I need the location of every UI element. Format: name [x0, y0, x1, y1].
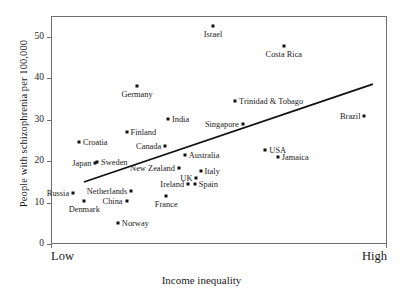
- data-point-label: Singapore: [205, 120, 239, 129]
- data-point[interactable]: [234, 99, 237, 102]
- data-point[interactable]: [241, 123, 244, 126]
- chart-page: People with schizophrenia per 100,000 01…: [0, 0, 403, 304]
- data-point[interactable]: [199, 170, 202, 173]
- data-point-label: Netherlands: [87, 186, 127, 195]
- y-axis-tick: 20: [0, 161, 51, 162]
- data-point[interactable]: [136, 84, 139, 87]
- x-axis-low-label: Low: [51, 249, 74, 264]
- data-point[interactable]: [183, 154, 186, 157]
- y-axis-tick-label: 20: [35, 154, 45, 167]
- data-point-label: Italy: [205, 167, 220, 176]
- data-point[interactable]: [116, 222, 119, 225]
- data-point[interactable]: [125, 130, 128, 133]
- y-axis-title: People with schizophrenia per 100,000: [18, 19, 29, 229]
- y-axis-tick: 30: [0, 120, 51, 121]
- data-point-label: France: [155, 200, 178, 209]
- trend-line: [52, 17, 388, 245]
- data-point-label: New Zealand: [130, 163, 175, 172]
- plot-area: IsraelCosta RicaGermanyTrinidad & Tobago…: [51, 16, 387, 244]
- data-point-label: Jamaica: [282, 153, 309, 162]
- data-point-label: Ireland: [160, 179, 184, 188]
- y-axis-tick-label: 50: [35, 30, 45, 43]
- data-point-label: Costa Rica: [266, 50, 303, 59]
- data-point[interactable]: [125, 200, 128, 203]
- data-point-label: Germany: [121, 90, 152, 99]
- data-point-label: Norway: [122, 219, 149, 228]
- data-point[interactable]: [166, 117, 169, 120]
- data-point-label: Finland: [131, 127, 157, 136]
- data-point[interactable]: [164, 145, 167, 148]
- data-point[interactable]: [72, 191, 75, 194]
- data-point-label: Trinidad & Tobago: [239, 96, 303, 105]
- y-axis-tick-label: 0: [39, 237, 44, 250]
- data-point[interactable]: [193, 183, 196, 186]
- data-point-label: Sweden: [101, 157, 128, 166]
- data-point-label: Canada: [136, 142, 161, 151]
- data-point[interactable]: [264, 149, 267, 152]
- data-point-label: Denmark: [69, 205, 100, 214]
- y-axis-tick: 0: [0, 244, 51, 245]
- data-point-label: Israel: [204, 30, 223, 39]
- y-axis-tick: 50: [0, 37, 51, 38]
- data-point[interactable]: [195, 177, 198, 180]
- data-point[interactable]: [77, 141, 80, 144]
- data-point-label: India: [172, 114, 189, 123]
- data-point-label: Australia: [189, 151, 220, 160]
- data-point[interactable]: [276, 156, 279, 159]
- data-point[interactable]: [363, 115, 366, 118]
- data-point[interactable]: [130, 189, 133, 192]
- data-point[interactable]: [94, 161, 97, 164]
- data-point[interactable]: [178, 166, 181, 169]
- data-point-label: Brazil: [340, 112, 360, 121]
- data-point-label: Spain: [199, 180, 218, 189]
- data-point[interactable]: [165, 195, 168, 198]
- data-point[interactable]: [282, 44, 285, 47]
- data-point[interactable]: [83, 199, 86, 202]
- y-axis-tick: 10: [0, 203, 51, 204]
- x-axis-title: Income inequality: [0, 274, 403, 286]
- data-point[interactable]: [211, 25, 214, 28]
- x-axis-tick-low: [51, 244, 52, 248]
- y-axis-tick-label: 40: [35, 71, 45, 84]
- data-point-label: Croatia: [83, 138, 108, 147]
- data-point-label: Japan: [72, 158, 91, 167]
- y-axis-tick: 40: [0, 78, 51, 79]
- x-axis-high-label: High: [362, 249, 387, 264]
- x-axis-tick-high: [386, 244, 387, 248]
- data-point-label: China: [103, 197, 123, 206]
- data-point-label: Russia: [47, 188, 69, 197]
- y-axis-tick-label: 30: [35, 113, 45, 126]
- data-point[interactable]: [187, 182, 190, 185]
- y-axis-tick-label: 10: [35, 196, 45, 209]
